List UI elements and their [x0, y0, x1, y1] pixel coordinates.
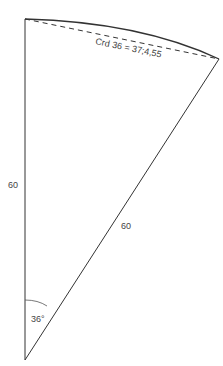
chord-label: Crd 36 = 37;4,55 — [95, 36, 163, 59]
angle-label: 36° — [31, 314, 45, 324]
diagonal-radius-line — [25, 59, 219, 360]
chord-dashed-line — [25, 19, 219, 59]
left-radius-label: 60 — [8, 180, 18, 190]
angle-arc — [25, 300, 47, 306]
diagonal-radius-label: 60 — [121, 221, 131, 231]
sector-diagram: Crd 36 = 37;4,55 60 60 36° — [0, 0, 223, 366]
